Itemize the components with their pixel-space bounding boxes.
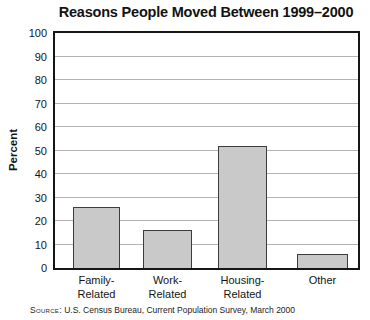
gridline [55, 103, 358, 104]
gridline [55, 173, 358, 174]
source-text: U.S. Census Bureau, Current Population S… [62, 305, 295, 315]
gridline [55, 56, 358, 57]
y-tick-label: 20 [0, 215, 47, 227]
x-tick-label-line: Other [278, 274, 368, 288]
bar-other [297, 254, 348, 268]
chart-title: Reasons People Moved Between 1999–2000 [42, 4, 370, 20]
y-tick-label: 60 [0, 121, 47, 133]
source-line: Source: U.S. Census Bureau, Current Popu… [30, 305, 295, 315]
gridline [55, 79, 358, 80]
x-tick-label-line: Housing- [198, 274, 288, 288]
x-tick-label-line: Related [198, 288, 288, 302]
y-tick-label: 0 [0, 262, 47, 274]
y-tick-label: 90 [0, 51, 47, 63]
y-tick-label: 50 [0, 145, 47, 157]
y-tick-label: 100 [0, 27, 47, 39]
x-tick-label: Housing-Related [198, 274, 288, 301]
x-tick-label: Other [278, 274, 368, 288]
bar-housing-related [218, 146, 267, 268]
bar-family-related [73, 207, 120, 268]
bar-work-related [143, 230, 192, 268]
y-tick-label: 70 [0, 98, 47, 110]
y-tick-label: 80 [0, 74, 47, 86]
chart-figure: Reasons People Moved Between 1999–2000 P… [0, 0, 370, 320]
source-prefix: Source: [30, 305, 62, 315]
plot-area [53, 31, 360, 270]
gridline [55, 126, 358, 127]
gridline [55, 197, 358, 198]
gridline [55, 150, 358, 151]
y-tick-label: 30 [0, 192, 47, 204]
y-tick-label: 10 [0, 239, 47, 251]
y-tick-label: 40 [0, 168, 47, 180]
